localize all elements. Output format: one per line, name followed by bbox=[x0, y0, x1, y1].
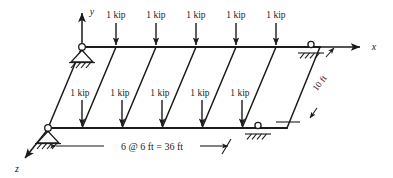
axis-z-label: z bbox=[14, 163, 19, 174]
top-load-labels: 1 kip 1 kip 1 kip 1 kip 1 kip bbox=[106, 10, 286, 20]
top-load-label-4: 1 kip bbox=[226, 10, 246, 20]
pin-circle-front-right bbox=[255, 122, 261, 128]
front-load-label-5: 1 kip bbox=[230, 88, 250, 98]
front-load-arrows bbox=[82, 100, 242, 126]
top-load-arrows bbox=[116, 23, 276, 45]
support-triangle-top-left bbox=[71, 50, 93, 62]
front-load-label-4: 1 kip bbox=[190, 88, 210, 98]
structural-diagram: y x z bbox=[0, 0, 393, 178]
span-dimension-label: 6 @ 6 ft = 36 ft bbox=[121, 141, 183, 152]
front-load-label-3: 1 kip bbox=[150, 88, 170, 98]
front-load-label-1: 1 kip bbox=[70, 88, 90, 98]
axis-z: z bbox=[14, 129, 48, 174]
support-triangle-front-left bbox=[37, 131, 59, 143]
span-dimension: 6 @ 6 ft = 36 ft bbox=[56, 139, 231, 154]
support-top-right bbox=[298, 41, 324, 58]
axis-y-label: y bbox=[89, 6, 95, 17]
support-front-right bbox=[245, 122, 271, 139]
figure-canvas: y x z bbox=[0, 0, 393, 178]
top-load-label-5: 1 kip bbox=[266, 10, 286, 20]
hatch-front-left bbox=[37, 144, 57, 149]
depth-dimension-label: 10 ft bbox=[311, 73, 329, 93]
top-load-label-2: 1 kip bbox=[146, 10, 166, 20]
pin-circle-top-right bbox=[308, 41, 314, 47]
pin-circle-top-left bbox=[79, 44, 86, 51]
pin-circle-front-left bbox=[45, 125, 52, 132]
top-load-label-3: 1 kip bbox=[186, 10, 206, 20]
axis-x-label: x bbox=[371, 41, 377, 52]
axis-y: y bbox=[82, 6, 95, 48]
front-load-label-2: 1 kip bbox=[110, 88, 130, 98]
top-load-label-1: 1 kip bbox=[106, 10, 126, 20]
hatch-front-right bbox=[247, 134, 267, 139]
